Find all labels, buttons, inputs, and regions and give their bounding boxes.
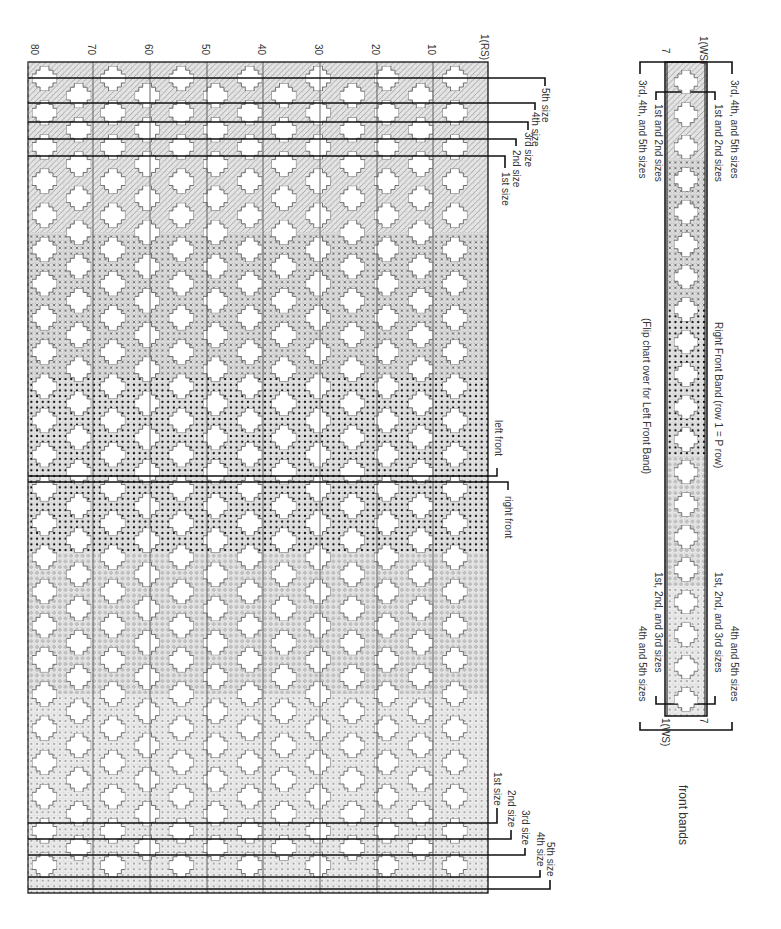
row-label-20: 20 [370,44,381,55]
row-label-1rs: 1(RS) [479,34,490,60]
band-bottom-left-label-1: 1st, 2nd, and 3rd sizes [653,572,664,673]
row-label-80: 80 [29,44,40,55]
band-top-left-label-1: 3rd, 4th, and 5th sizes [637,80,648,178]
band-top-left-label-2: 1st and 2nd sizes [653,104,664,182]
band-bottom-row-1ws: 1(WS) [660,718,671,746]
top-size-label-1: 1st size [500,172,511,206]
band-top-row-7: 7 [660,48,671,54]
band-top-right-label-2: 3rd, 4th, and 5th sizes [729,80,740,178]
band-bottom-right-label-2: 4th and 5th sizes [729,626,740,702]
top-size-label-2: 2nd size [511,150,522,187]
bottom-size-label-1: 1st size [492,772,503,806]
band-top-right-label-1: 1st and 2nd sizes [713,104,724,182]
band-bottom-right-label-1: 1st, 2nd, and 3rd sizes [713,572,724,673]
band-flip-note: (Flip chart over for Left Front Band) [641,318,652,474]
top-size-label-5: 5th size [540,88,551,122]
row-label-10: 10 [426,44,437,55]
right-front-label: right front [503,496,514,538]
bottom-size-label-5: 5th size [545,842,556,876]
row-label-70: 70 [86,44,97,55]
row-label-60: 60 [143,44,154,55]
bottom-size-label-3: 3rd size [520,810,531,845]
row-label-50: 50 [200,44,211,55]
band-bottom-row-7: 7 [698,718,709,724]
main-chart [28,62,550,893]
band-bottom-left-label-2: 4th and 5th sizes [637,626,648,702]
band-top-row-1ws: 1(WS) [698,36,709,64]
bottom-size-label-2: 2nd size [506,790,517,827]
left-front-label: left front [493,420,504,456]
band-caption: front bands [676,785,690,845]
row-label-40: 40 [256,44,267,55]
row-label-30: 30 [313,44,324,55]
band-title: Right Front Band (row 1 = P row) [713,322,724,468]
